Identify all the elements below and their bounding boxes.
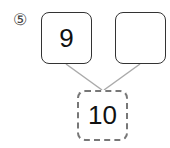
answer-blank-box[interactable] [115, 12, 166, 64]
left-number-box: 9 [41, 12, 92, 64]
total-number-box: 10 [77, 90, 128, 141]
problem-number: ⑤ [11, 11, 29, 29]
